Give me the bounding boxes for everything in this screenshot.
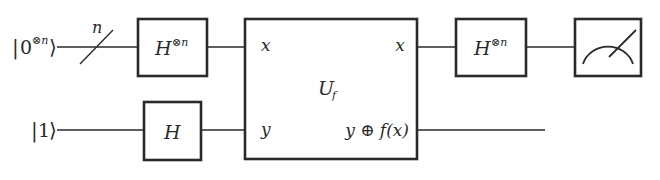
oracle-output-y-xor-fx: y ⊕ f(x): [344, 120, 409, 140]
gate-label: H: [163, 121, 181, 143]
gate-hadamard-single: H: [144, 102, 201, 160]
gate-measurement: [575, 19, 641, 76]
gate-label: H: [154, 37, 172, 59]
quantum-circuit: | 0 ⊗n ⟩ | 1 ⟩ n H ⊗n H U f x y x y ⊕ f(…: [0, 0, 660, 180]
ket-value-top: 0: [20, 36, 32, 58]
oracle-input-x: x: [261, 35, 271, 55]
input-ket-top: | 0 ⊗n ⟩: [12, 34, 57, 60]
ket-open-top: |: [12, 35, 19, 60]
input-ket-bottom: | 1 ⟩: [31, 118, 57, 143]
oracle-input-y: y: [260, 119, 271, 139]
oracle-output-x: x: [395, 35, 405, 55]
gate-label: H: [473, 37, 491, 59]
gate-hadamard-n-input: H ⊗n: [138, 19, 207, 76]
bundle-label: n: [92, 18, 102, 37]
gate-superscript: ⊗n: [491, 36, 507, 49]
gate-oracle: U f x y x y ⊕ f(x): [245, 19, 417, 159]
ket-open-bottom: |: [31, 118, 38, 143]
gate-hadamard-n-output: H ⊗n: [456, 19, 526, 76]
ket-superscript-top: ⊗n: [32, 34, 48, 47]
gate-superscript: ⊗n: [172, 36, 188, 49]
ket-close-top: ⟩: [49, 35, 57, 59]
ket-close-bottom: ⟩: [49, 118, 57, 142]
